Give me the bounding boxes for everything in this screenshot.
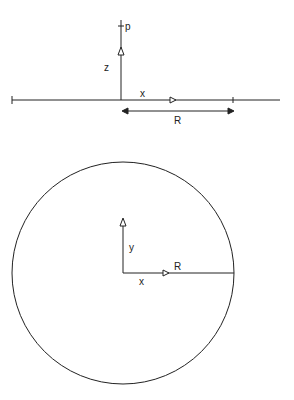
side-view bbox=[12, 20, 280, 114]
point-p-label: p bbox=[125, 21, 131, 32]
x-axis-label-top: x bbox=[139, 276, 144, 287]
x-axis-arrow-icon-top bbox=[163, 270, 169, 276]
radius-label-top: R bbox=[174, 261, 181, 272]
x-axis-label-side: x bbox=[140, 88, 145, 99]
top-view bbox=[12, 162, 234, 384]
z-axis-open-arrow-icon bbox=[118, 47, 124, 55]
x-axis-arrow-icon bbox=[170, 97, 176, 103]
z-axis-label: z bbox=[104, 62, 109, 73]
y-axis-label: y bbox=[129, 242, 134, 253]
diagram-canvas: p z x R y x R bbox=[0, 0, 294, 400]
y-axis-open-arrow-icon bbox=[120, 218, 126, 226]
radius-label-side: R bbox=[174, 115, 181, 126]
radius-arrow-left-icon bbox=[122, 108, 128, 114]
figure-caption bbox=[8, 391, 288, 400]
radius-arrow-right-icon bbox=[228, 108, 234, 114]
